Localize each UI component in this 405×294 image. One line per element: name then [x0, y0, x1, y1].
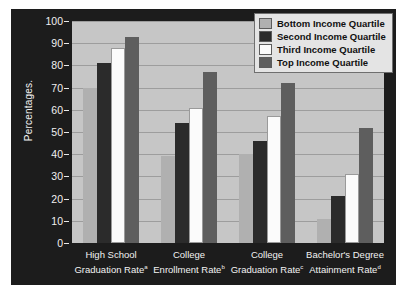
- bar[interactable]: 77%: [203, 72, 217, 243]
- legend-label: Third Income Quartile: [277, 44, 375, 55]
- bar[interactable]: 93%: [125, 37, 139, 243]
- y-axis-tick: 70: [51, 82, 63, 94]
- bar[interactable]: 52%: [359, 128, 373, 243]
- y-axis-tick: 30: [51, 170, 63, 182]
- y-axis-tick-labels: 1009080706050403020100: [25, 21, 69, 243]
- bar-chart-figure: Percentages. 1009080706050403020100 70%8…: [11, 9, 396, 285]
- bar[interactable]: 61%: [189, 108, 203, 243]
- bar-slot: 88%: [111, 21, 125, 243]
- legend-label: Top Income Quartile: [277, 57, 368, 68]
- y-axis-tick: 80: [51, 59, 63, 71]
- bar-group: 70%81%88%93%: [83, 21, 139, 243]
- legend-label: Bottom Income Quartile: [277, 18, 385, 29]
- legend-swatch-icon: [259, 31, 272, 42]
- bar-slot: 39%: [161, 21, 175, 243]
- footnote-marker: c: [300, 264, 303, 270]
- bar[interactable]: 21%: [331, 196, 345, 243]
- y-axis-tick: 10: [51, 215, 63, 227]
- x-axis-label: High SchoolGraduation Ratea: [72, 249, 150, 276]
- bar-slot: 81%: [97, 21, 111, 243]
- footnote-marker: b: [221, 264, 224, 270]
- bar[interactable]: 57%: [267, 116, 281, 243]
- bar[interactable]: 81%: [97, 63, 111, 243]
- bar-slot: 61%: [189, 21, 203, 243]
- y-axis-tick: 50: [51, 126, 63, 138]
- legend-swatch-icon: [259, 57, 272, 68]
- legend: Bottom Income QuartileSecond Income Quar…: [254, 13, 393, 73]
- x-axis-label: CollegeGraduation Ratec: [228, 249, 306, 276]
- bar[interactable]: 40%: [239, 154, 253, 243]
- legend-item[interactable]: Bottom Income Quartile: [259, 18, 386, 29]
- legend-item[interactable]: Second Income Quartile: [259, 31, 386, 42]
- x-axis-label: CollegeEnrollment Rateb: [150, 249, 228, 276]
- bar-slot: 77%: [203, 21, 217, 243]
- legend-swatch-icon: [259, 18, 272, 29]
- bar-slot: 54%: [175, 21, 189, 243]
- y-axis-tick: 40: [51, 148, 63, 160]
- bar[interactable]: 88%: [111, 48, 125, 243]
- bar[interactable]: 54%: [175, 123, 189, 243]
- y-axis-tick: 90: [51, 37, 63, 49]
- legend-item[interactable]: Top Income Quartile: [259, 57, 386, 68]
- bar-slot: 93%: [125, 21, 139, 243]
- bar[interactable]: 46%: [253, 141, 267, 243]
- bar-slot: 40%: [239, 21, 253, 243]
- bar[interactable]: 72%: [281, 83, 295, 243]
- y-axis-tick: 60: [51, 104, 63, 116]
- x-axis-label: Bachelor's DegreeAttainment Rated: [306, 249, 384, 276]
- y-axis-tick: 100: [45, 15, 63, 27]
- bar[interactable]: 39%: [161, 156, 175, 243]
- legend-swatch-icon: [259, 44, 272, 55]
- bar[interactable]: 31%: [345, 174, 359, 243]
- y-axis-tick: 20: [51, 193, 63, 205]
- bar[interactable]: 70%: [83, 88, 97, 243]
- bar-group: 39%54%61%77%: [161, 21, 217, 243]
- footnote-marker: a: [144, 264, 147, 270]
- bar[interactable]: 11%: [317, 219, 331, 243]
- legend-item[interactable]: Third Income Quartile: [259, 44, 386, 55]
- y-axis-tick: 0: [57, 237, 63, 249]
- x-axis-category-labels: High SchoolGraduation RateaCollegeEnroll…: [72, 249, 384, 276]
- footnote-marker: d: [377, 264, 380, 270]
- bar-slot: 70%: [83, 21, 97, 243]
- legend-label: Second Income Quartile: [277, 31, 386, 42]
